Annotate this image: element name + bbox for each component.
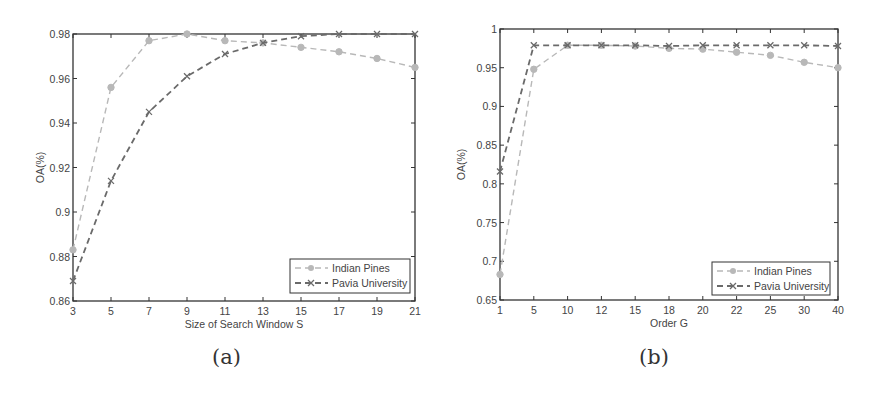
marker-circle [531,66,537,72]
y-tick-label: 0.85 [477,139,498,151]
marker-circle [733,49,739,55]
plot-frame [500,29,838,300]
caption-a: (a) [212,345,241,369]
x-tick-label: 15 [295,305,307,317]
x-axis-label: Size of Search Window S [185,318,303,330]
series-line-indian-pines [500,45,838,274]
x-tick-label: 5 [531,304,537,316]
marker-circle [336,49,342,55]
figure-b: 151012151820222530400.650.70.750.80.850.… [437,0,874,397]
legend-marker-circle [730,268,736,274]
marker-x [184,73,190,79]
y-tick-label: 0.65 [477,294,498,306]
marker-circle [298,44,304,50]
x-tick-label: 40 [832,304,844,316]
y-tick-label: 0.98 [50,28,71,40]
legend-label: Pavia University [332,277,408,289]
y-axis-label: OA(%) [455,149,467,181]
y-tick-label: 0.86 [50,295,71,307]
marker-circle [767,52,773,58]
x-tick-label: 18 [663,304,675,316]
y-tick-label: 0.7 [482,255,497,267]
y-tick-label: 0.8 [482,178,497,190]
x-tick-label: 10 [562,304,574,316]
marker-circle [184,31,190,37]
x-tick-label: 5 [108,305,114,317]
legend-marker-circle [308,265,314,271]
x-tick-label: 3 [70,305,76,317]
chart-b: 151012151820222530400.650.70.750.80.850.… [437,0,874,397]
x-tick-label: 30 [798,304,810,316]
x-tick-label: 20 [697,304,709,316]
x-tick-label: 9 [184,305,190,317]
y-tick-label: 0.96 [50,73,71,85]
chart-a: 35791113151719210.860.880.90.920.940.960… [0,0,437,397]
marker-circle [108,84,114,90]
y-tick-label: 0.95 [477,62,498,74]
marker-circle [374,55,380,61]
y-tick-label: 0.88 [50,251,71,263]
marker-circle [146,37,152,43]
legend-label: Indian Pines [754,265,812,277]
legend-label: Indian Pines [332,262,390,274]
y-tick-label: 0.94 [50,117,71,129]
y-tick-label: 1 [491,23,497,35]
marker-circle [497,271,503,277]
series-line-pavia-university [500,45,838,171]
x-axis-label: Order G [650,317,688,329]
series-line-indian-pines [73,34,415,250]
y-tick-label: 0.75 [477,217,498,229]
marker-circle [801,59,807,65]
marker-circle [835,65,841,71]
legend-label: Pavia University [754,280,830,292]
x-tick-label: 15 [629,304,641,316]
marker-circle [412,64,418,70]
x-tick-label: 7 [146,305,152,317]
y-tick-label: 0.9 [482,100,497,112]
x-tick-label: 1 [497,304,503,316]
x-tick-label: 21 [409,305,421,317]
x-tick-label: 12 [596,304,608,316]
x-tick-label: 17 [333,305,345,317]
y-axis-label: OA(%) [34,152,46,184]
figure-a: 35791113151719210.860.880.90.920.940.960… [0,0,437,397]
caption-b: (b) [639,345,669,369]
x-tick-label: 11 [220,305,231,317]
x-tick-label: 19 [371,305,383,317]
x-tick-label: 13 [257,305,269,317]
marker-circle [70,247,76,253]
x-tick-label: 25 [765,304,777,316]
y-tick-label: 0.92 [50,162,71,174]
marker-circle [222,37,228,43]
x-tick-label: 22 [731,304,743,316]
marker-x [146,109,152,115]
y-tick-label: 0.9 [55,206,70,218]
series-line-pavia-university [73,34,415,281]
